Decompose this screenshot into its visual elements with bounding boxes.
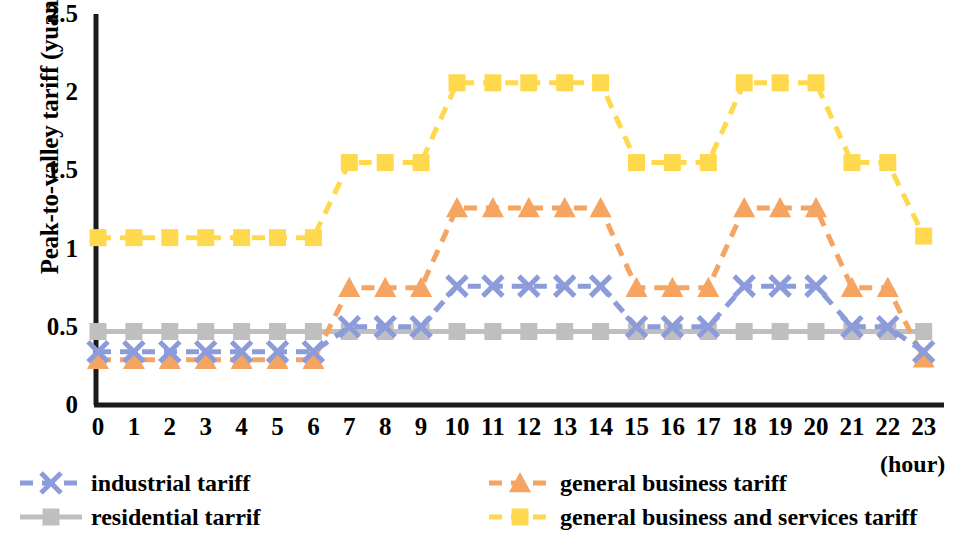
series-line xyxy=(98,286,924,352)
data-point xyxy=(556,323,573,340)
legend-item[interactable]: general business tariff xyxy=(487,470,787,496)
legend-label: general business and services tariff xyxy=(560,505,917,529)
data-point xyxy=(843,154,860,171)
data-point xyxy=(484,74,501,91)
data-point xyxy=(233,323,250,340)
data-point xyxy=(591,276,611,296)
data-point xyxy=(915,323,932,340)
data-point xyxy=(664,154,681,171)
chart-container: Peak-to-valley tariff (yuan/kWh) 00.511.… xyxy=(0,0,956,539)
data-point xyxy=(733,197,755,217)
legend-swatch-graphic xyxy=(487,470,553,496)
data-point xyxy=(556,74,573,91)
data-point xyxy=(90,323,107,340)
legend-swatch-graphic xyxy=(18,470,84,496)
data-point xyxy=(772,74,789,91)
data-point xyxy=(161,323,178,340)
data-point xyxy=(125,229,142,246)
legend-swatch-graphic xyxy=(18,504,84,530)
data-point xyxy=(338,277,360,297)
data-point xyxy=(628,154,645,171)
data-point xyxy=(377,154,394,171)
data-point xyxy=(484,323,501,340)
data-point xyxy=(808,323,825,340)
data-point xyxy=(520,323,537,340)
data-point xyxy=(590,197,612,217)
x-axis-unit-label: (hour) xyxy=(880,452,945,476)
series-general-business-and-services-tariff xyxy=(90,74,933,246)
legend-point xyxy=(43,509,60,526)
data-point xyxy=(808,74,825,91)
data-point xyxy=(233,229,250,246)
data-point xyxy=(772,323,789,340)
legend-label: industrial tariff xyxy=(91,471,250,495)
legend-item[interactable]: residential tarrif xyxy=(18,504,261,530)
legend-label: residential tarrif xyxy=(91,505,261,529)
data-point xyxy=(269,229,286,246)
legend-marker-square-icon xyxy=(18,504,84,530)
data-point xyxy=(915,228,932,245)
data-point xyxy=(269,323,286,340)
data-point xyxy=(413,154,430,171)
data-point xyxy=(879,154,896,171)
data-point xyxy=(736,74,753,91)
series-line xyxy=(98,83,924,238)
legend-item[interactable]: general business and services tariff xyxy=(487,504,917,530)
data-point xyxy=(90,229,107,246)
series-industrial-tariff xyxy=(88,276,934,362)
data-point xyxy=(736,323,753,340)
legend-point xyxy=(512,509,529,526)
series-line xyxy=(98,208,924,360)
data-point xyxy=(305,229,322,246)
series-residential-tarrif xyxy=(90,323,933,340)
legend-marker-x-icon xyxy=(18,470,84,496)
legend-marker-triangle-icon xyxy=(487,470,553,496)
data-point xyxy=(592,323,609,340)
data-point xyxy=(161,229,178,246)
data-point xyxy=(197,229,214,246)
data-point xyxy=(197,323,214,340)
data-point xyxy=(341,154,358,171)
legend-swatch-graphic xyxy=(487,504,553,530)
plot-area xyxy=(0,0,956,539)
data-point xyxy=(592,74,609,91)
data-point xyxy=(449,323,466,340)
data-point xyxy=(125,323,142,340)
data-point xyxy=(520,74,537,91)
data-point xyxy=(447,276,467,296)
data-point xyxy=(877,277,899,297)
legend-label: general business tariff xyxy=(560,471,787,495)
data-point xyxy=(449,74,466,91)
legend-marker-square-icon xyxy=(487,504,553,530)
data-point xyxy=(700,154,717,171)
legend-item[interactable]: industrial tariff xyxy=(18,470,250,496)
data-point xyxy=(305,323,322,340)
data-point xyxy=(482,197,504,217)
